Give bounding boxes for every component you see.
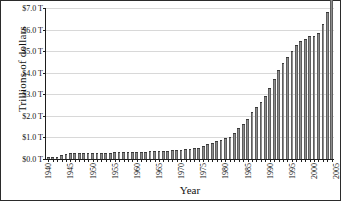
x-tick-mark bbox=[203, 159, 204, 162]
x-tick-mark bbox=[323, 159, 324, 162]
x-tick-mark bbox=[101, 159, 102, 162]
x-tick-mark bbox=[256, 159, 257, 162]
x-tick-mark bbox=[150, 159, 151, 162]
x-tick-mark bbox=[318, 159, 319, 162]
bar bbox=[291, 51, 294, 159]
x-tick-label: 1940 bbox=[44, 163, 53, 179]
x-tick-label: 1980 bbox=[221, 163, 230, 179]
bar bbox=[308, 36, 311, 159]
bar bbox=[144, 152, 147, 159]
x-tick-mark bbox=[190, 159, 191, 162]
x-tick-mark bbox=[57, 159, 58, 162]
bar bbox=[180, 150, 183, 159]
bar bbox=[206, 144, 209, 159]
bar bbox=[135, 152, 138, 159]
bar bbox=[113, 152, 116, 159]
bar bbox=[220, 140, 223, 159]
x-tick-mark bbox=[79, 159, 80, 162]
bar bbox=[184, 149, 187, 159]
x-tick-mark bbox=[106, 159, 107, 162]
x-tick-mark bbox=[84, 159, 85, 162]
x-tick-mark bbox=[332, 159, 333, 162]
x-tick-mark bbox=[48, 159, 49, 162]
x-tick-mark bbox=[261, 159, 262, 162]
x-tick-mark bbox=[124, 159, 125, 162]
gridline bbox=[46, 30, 334, 31]
bar bbox=[251, 112, 254, 159]
x-tick-label: 1965 bbox=[155, 163, 164, 179]
x-tick-mark bbox=[177, 159, 178, 162]
bar bbox=[264, 96, 267, 159]
x-tick-mark bbox=[155, 159, 156, 162]
x-tick-mark bbox=[279, 159, 280, 162]
y-tick-label: $4.0 T bbox=[22, 68, 43, 77]
y-tick-label: $2.0 T bbox=[22, 111, 43, 120]
bar bbox=[317, 33, 320, 159]
x-tick-mark bbox=[217, 159, 218, 162]
x-tick-mark bbox=[230, 159, 231, 162]
x-tick-mark bbox=[194, 159, 195, 162]
bar bbox=[193, 148, 196, 159]
x-tick-mark bbox=[248, 159, 249, 162]
x-tick-label: 1960 bbox=[133, 163, 142, 179]
plot-area: $7.0 T$6.0 T$5.0 T$4.0 T$3.0 T$2.0 T$1.0… bbox=[45, 8, 334, 160]
bar bbox=[237, 128, 240, 159]
y-tick-label: $5.0 T bbox=[22, 47, 43, 56]
bar bbox=[224, 138, 227, 159]
bar bbox=[326, 12, 329, 159]
x-tick-mark bbox=[66, 159, 67, 162]
x-tick-mark bbox=[119, 159, 120, 162]
x-tick-mark bbox=[172, 159, 173, 162]
x-tick-mark bbox=[181, 159, 182, 162]
x-tick-mark bbox=[132, 159, 133, 162]
x-tick-mark bbox=[310, 159, 311, 162]
bar bbox=[242, 124, 245, 159]
x-tick-mark bbox=[186, 159, 187, 162]
bar bbox=[171, 150, 174, 159]
x-tick-mark bbox=[115, 159, 116, 162]
bar bbox=[211, 143, 214, 159]
x-tick-mark bbox=[239, 159, 240, 162]
bar bbox=[166, 151, 169, 159]
x-tick-mark bbox=[301, 159, 302, 162]
x-tick-mark bbox=[141, 159, 142, 162]
x-tick-label: 1945 bbox=[66, 163, 75, 179]
bar bbox=[153, 151, 156, 159]
x-tick-mark bbox=[287, 159, 288, 162]
bar bbox=[246, 119, 249, 159]
bar bbox=[304, 39, 307, 159]
bar bbox=[215, 141, 218, 159]
bar bbox=[197, 148, 200, 159]
bar bbox=[175, 150, 178, 159]
x-tick-label: 1950 bbox=[89, 163, 98, 179]
x-tick-label: 1955 bbox=[111, 163, 120, 179]
x-tick-mark bbox=[168, 159, 169, 162]
x-tick-mark bbox=[137, 159, 138, 162]
x-tick-mark bbox=[163, 159, 164, 162]
x-tick-mark bbox=[270, 159, 271, 162]
x-tick-mark bbox=[97, 159, 98, 162]
x-tick-label: 1975 bbox=[199, 163, 208, 179]
y-tick-label: $1.0 T bbox=[22, 133, 43, 142]
x-tick-mark bbox=[93, 159, 94, 162]
bar bbox=[330, 0, 333, 159]
x-tick-label: 1970 bbox=[177, 163, 186, 179]
bar bbox=[313, 36, 316, 159]
bar bbox=[158, 151, 161, 159]
x-tick-mark bbox=[327, 159, 328, 162]
y-tick-label: $0.0 T bbox=[22, 155, 43, 164]
x-tick-mark bbox=[62, 159, 63, 162]
y-tick-label: $7.0 T bbox=[22, 4, 43, 13]
bar bbox=[202, 146, 205, 159]
x-tick-mark bbox=[128, 159, 129, 162]
x-tick-mark bbox=[292, 159, 293, 162]
x-tick-label: 2000 bbox=[310, 163, 319, 179]
bar bbox=[233, 133, 236, 159]
x-tick-mark bbox=[88, 159, 89, 162]
x-tick-mark bbox=[208, 159, 209, 162]
bar bbox=[286, 57, 289, 159]
x-tick-mark bbox=[265, 159, 266, 162]
x-tick-label: 2005 bbox=[332, 163, 341, 179]
x-tick-mark bbox=[159, 159, 160, 162]
bar bbox=[295, 45, 298, 159]
